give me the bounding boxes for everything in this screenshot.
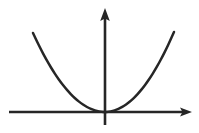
graph-canvas xyxy=(0,0,199,133)
parabola-figure xyxy=(0,0,199,133)
